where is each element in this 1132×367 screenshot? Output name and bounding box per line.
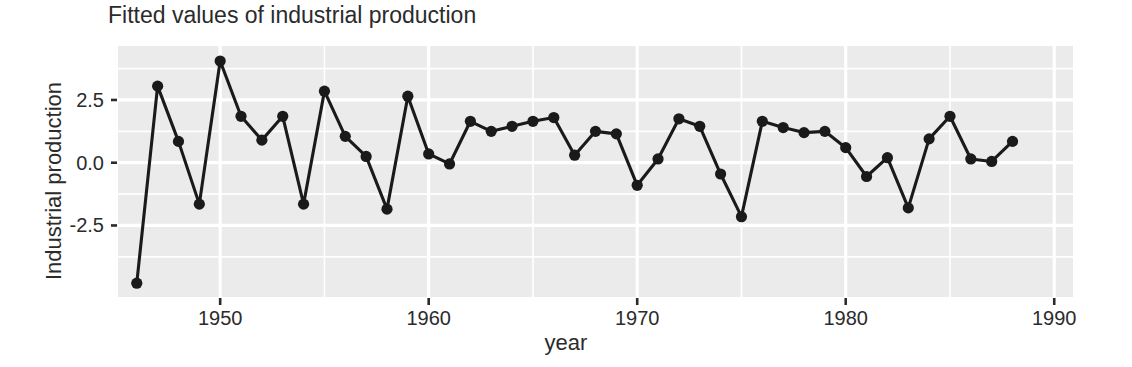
data-point xyxy=(632,180,643,191)
data-point xyxy=(506,121,517,132)
data-point xyxy=(965,153,976,164)
data-point xyxy=(944,111,955,122)
data-point xyxy=(861,171,872,182)
x-axis-ticks: 19501960197019801990 xyxy=(198,298,1077,329)
data-point xyxy=(882,152,893,163)
data-point xyxy=(757,116,768,127)
data-point xyxy=(486,126,497,137)
data-point xyxy=(340,131,351,142)
data-point xyxy=(903,202,914,213)
data-point xyxy=(173,136,184,147)
data-point xyxy=(694,121,705,132)
data-point xyxy=(673,113,684,124)
data-point xyxy=(215,55,226,66)
panel-background xyxy=(118,46,1073,297)
data-point xyxy=(611,128,622,139)
data-point xyxy=(131,278,142,289)
data-point xyxy=(235,111,246,122)
data-point xyxy=(319,86,330,97)
data-point xyxy=(590,126,601,137)
y-tick-label: 0.0 xyxy=(76,152,104,174)
x-tick-label: 1980 xyxy=(823,307,868,329)
data-point xyxy=(924,133,935,144)
data-point xyxy=(423,148,434,159)
x-tick-label: 1950 xyxy=(198,307,243,329)
data-point xyxy=(548,112,559,123)
data-point xyxy=(778,122,789,133)
data-point xyxy=(298,199,309,210)
x-tick-label: 1990 xyxy=(1032,307,1077,329)
x-tick-label: 1970 xyxy=(615,307,660,329)
data-point xyxy=(256,135,267,146)
y-tick-label: 2.5 xyxy=(76,89,104,111)
data-point xyxy=(798,127,809,138)
data-point xyxy=(715,168,726,179)
data-point xyxy=(381,204,392,215)
data-point xyxy=(819,126,830,137)
data-point xyxy=(527,116,538,127)
data-point xyxy=(277,111,288,122)
data-point xyxy=(986,156,997,167)
y-tick-label: -2.5 xyxy=(70,214,104,236)
data-point xyxy=(194,199,205,210)
data-point xyxy=(402,91,413,102)
data-point xyxy=(840,142,851,153)
data-point xyxy=(736,211,747,222)
data-point xyxy=(152,81,163,92)
plot-area: 2.50.0-2.5 19501960197019801990 xyxy=(0,0,1132,367)
data-point xyxy=(652,153,663,164)
data-point xyxy=(465,116,476,127)
y-axis-ticks: 2.50.0-2.5 xyxy=(70,89,117,237)
x-tick-label: 1960 xyxy=(406,307,451,329)
data-point xyxy=(1007,136,1018,147)
data-point xyxy=(444,158,455,169)
chart-figure: Fitted values of industrial production I… xyxy=(0,0,1132,367)
data-point xyxy=(361,151,372,162)
data-point xyxy=(569,150,580,161)
